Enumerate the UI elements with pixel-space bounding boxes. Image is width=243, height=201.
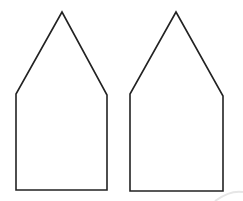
watermark-arc [215, 192, 243, 201]
right-house-pentagon [130, 12, 223, 191]
left-house-pentagon [16, 12, 107, 190]
diagram-canvas [0, 0, 243, 201]
